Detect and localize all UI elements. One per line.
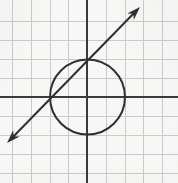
graph-figure — [0, 0, 178, 183]
coordinate-plane-svg — [0, 0, 178, 183]
paper-background — [0, 0, 178, 183]
